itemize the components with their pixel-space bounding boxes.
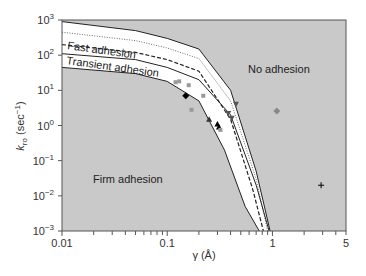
chart: 10310210110010−110−210−3 0.010.115 γ (Å)… — [0, 0, 366, 276]
data-point-square — [218, 128, 222, 132]
data-point-square — [177, 79, 181, 83]
region-label: Firm adhesion — [93, 173, 163, 185]
x-tick-label: 5 — [343, 237, 349, 249]
y-tick-label: 103 — [37, 12, 54, 26]
y-axis-title: kro (sec−1) — [13, 101, 29, 150]
x-axis: 0.010.115 — [51, 231, 349, 249]
x-tick-label: 0.01 — [51, 237, 72, 249]
y-tick-label: 102 — [37, 47, 54, 61]
data-point-square — [174, 80, 178, 84]
data-point-square — [201, 94, 205, 98]
x-tick-label: 1 — [269, 237, 275, 249]
y-tick-label: 10−2 — [33, 188, 55, 202]
x-axis-title: γ (Å) — [192, 249, 215, 261]
y-axis: 10310210110010−110−210−3 — [33, 12, 62, 237]
data-point-square — [187, 83, 191, 87]
y-tick-label: 100 — [37, 118, 54, 132]
x-tick-label: 0.1 — [160, 237, 175, 249]
data-point-square — [189, 108, 193, 112]
y-tick-label: 10−1 — [33, 153, 55, 167]
y-tick-label: 10−3 — [33, 223, 55, 237]
y-tick-label: 101 — [37, 82, 54, 96]
region-label: No adhesion — [248, 63, 310, 75]
